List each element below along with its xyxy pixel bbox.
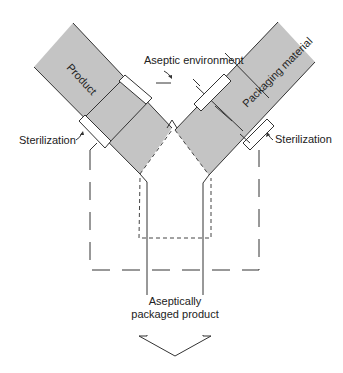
sterilization-right-arrow (266, 132, 273, 140)
output-label-line2: packaged product (131, 308, 218, 320)
output-arrow (139, 335, 211, 356)
aseptic-environment-label: Aseptic environment (144, 54, 244, 66)
left-boundary-join (90, 143, 97, 152)
output-label-line1: Aseptically (149, 295, 202, 307)
aseptic-pointer-arrow (156, 71, 172, 83)
product-flow-line (140, 174, 147, 295)
packaging-flow-line (203, 175, 209, 295)
sterilization-right-label: Sterilization (275, 133, 332, 145)
product-bar (34, 23, 172, 174)
aseptic-packaging-diagram: Product Packaging material Aseptic envir… (0, 0, 343, 373)
sterilization-left-label: Sterilization (19, 134, 76, 146)
aseptic-environment-boundary (90, 150, 259, 270)
sterilization-left-arrow (76, 131, 84, 140)
inner-aseptic-boundary (139, 178, 211, 238)
